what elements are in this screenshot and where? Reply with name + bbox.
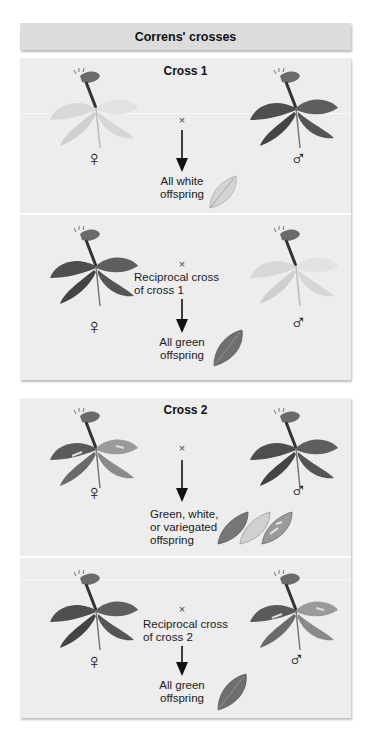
male-plant-variegated-icon (242, 570, 342, 654)
description-line: Reciprocal cross (143, 618, 253, 631)
male-symbol: ♂ (290, 480, 307, 502)
cross-symbol: × (172, 442, 192, 454)
cross-symbol: × (172, 258, 192, 270)
female-plant-green-icon (42, 570, 142, 654)
description-line: Reciprocal cross (134, 271, 244, 284)
description-label: Reciprocal cross of cross 1 (134, 271, 244, 297)
male-symbol: ♂ (290, 148, 307, 170)
male-plant-white-icon (242, 226, 342, 310)
female-symbol: ♀ (86, 148, 103, 170)
row-divider (20, 556, 351, 558)
figure-title: Correns' crosses (20, 23, 351, 50)
male-symbol: ♂ (290, 312, 307, 334)
white-leaf-icon (206, 174, 240, 210)
cross-2-panel: Cross 2 × ♀ ♂ Green, white, or variegate… (20, 398, 351, 718)
male-symbol: ♂ (288, 649, 305, 671)
description-line: of cross 1 (134, 284, 244, 297)
female-plant-green-icon (42, 226, 142, 310)
description-label: Reciprocal cross of cross 2 (143, 618, 253, 644)
mixed-leaves-icon (214, 506, 300, 546)
male-plant-green-icon (242, 68, 342, 152)
down-arrow-icon (175, 646, 189, 676)
result-label: All green offspring (142, 679, 222, 705)
cross-1-panel: Cross 1 × ♀ ♂ All white offspring × Reci… (20, 58, 351, 380)
result-line: All green (142, 679, 222, 692)
description-line: of cross 2 (143, 631, 253, 644)
cross-symbol: × (172, 603, 192, 615)
result-line: offspring (142, 692, 222, 705)
down-arrow-icon (175, 130, 189, 172)
female-symbol: ♀ (86, 482, 103, 504)
down-arrow-icon (175, 460, 189, 502)
female-plant-white-icon (42, 68, 142, 152)
green-leaf-icon (210, 328, 246, 368)
female-symbol: ♀ (86, 316, 103, 338)
row-divider (20, 213, 351, 215)
green-leaf-icon (214, 672, 250, 712)
female-symbol: ♀ (86, 651, 103, 673)
cross-symbol: × (172, 114, 192, 126)
down-arrow-icon (175, 299, 189, 333)
